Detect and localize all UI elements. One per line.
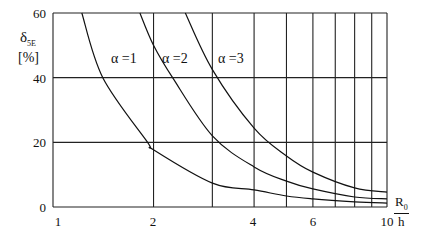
x-axis-label: R0 h xyxy=(394,195,409,228)
y-tick-20: 20 xyxy=(16,136,46,149)
curve-alpha-2 xyxy=(140,13,387,199)
x-tick-6: 6 xyxy=(303,215,323,228)
x-tick-2: 2 xyxy=(143,215,163,228)
curve-label-alpha-1: α =1 xyxy=(111,52,137,66)
curve-label-alpha-3: α =3 xyxy=(218,52,244,66)
chart-plot-area xyxy=(0,0,429,234)
y-tick-40: 40 xyxy=(16,72,46,85)
y-tick-60: 60 xyxy=(16,7,46,20)
curve-label-alpha-2: α =2 xyxy=(162,52,188,66)
y-axis-unit: [%] xyxy=(18,51,39,65)
x-tick-1: 1 xyxy=(48,215,68,228)
curve-alpha-1 xyxy=(82,13,387,203)
x-tick-4: 4 xyxy=(243,215,263,228)
y-tick-0: 0 xyxy=(16,201,46,214)
y-axis-label: δ5E xyxy=(20,30,36,48)
